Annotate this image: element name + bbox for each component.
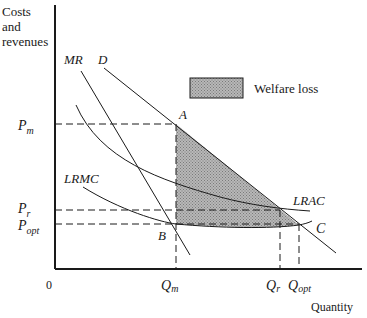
lrac-label: LRAC	[292, 193, 325, 208]
qr-label: Qr	[266, 278, 280, 294]
welfare-loss-area	[176, 124, 299, 227]
qopt-label: Qopt	[288, 278, 311, 294]
legend-label: Welfare loss	[254, 81, 318, 96]
mr-label: MR	[63, 52, 83, 67]
y-axis-label-line-2: and	[2, 19, 21, 34]
point-b-label: B	[158, 228, 166, 243]
y-axis-label-line-3: revenues	[2, 34, 48, 49]
qm-label: Qm	[161, 278, 178, 294]
pm-label: Pm	[17, 118, 34, 136]
point-c-label: C	[316, 221, 326, 236]
lrmc-label: LRMC	[63, 171, 99, 186]
demand-label: D	[97, 52, 108, 67]
point-a-label: A	[178, 107, 187, 122]
mr-curve	[81, 71, 190, 255]
x-axis-label: Quantity	[311, 300, 353, 314]
legend-swatch	[190, 78, 243, 98]
welfare-loss-diagram: Costs and revenues MR D LRMC LRAC A B C …	[0, 0, 367, 318]
origin-label: 0	[46, 278, 52, 292]
popt-label: Popt	[17, 218, 40, 236]
y-axis-label-line-1: Costs	[2, 4, 31, 19]
pr-label: Pr	[17, 201, 31, 219]
